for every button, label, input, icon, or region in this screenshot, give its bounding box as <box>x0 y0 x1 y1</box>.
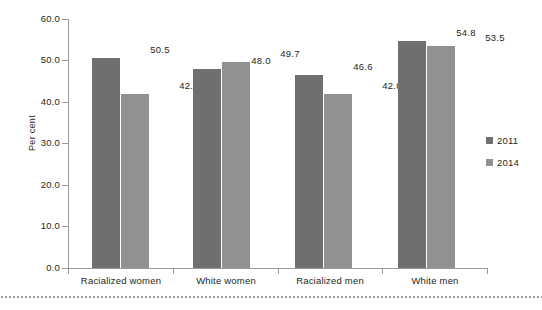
bar-value-label: 50.5 <box>140 44 180 55</box>
legend-item-2011[interactable]: 2011 <box>486 129 519 151</box>
chart-legend: 2011 2014 <box>486 129 519 173</box>
bar-2014[interactable] <box>427 46 455 268</box>
legend-swatch-icon <box>486 137 493 144</box>
y-axis-tick-label: 10.0 <box>14 220 60 231</box>
y-axis-tick-label: 40.0 <box>14 96 60 107</box>
x-axis-tick <box>382 268 383 274</box>
bar-value-label: 46.6 <box>343 61 383 72</box>
bar-2014[interactable] <box>324 94 352 268</box>
x-axis-tick <box>278 268 279 274</box>
bar-2011[interactable] <box>398 41 426 268</box>
x-axis-tick <box>487 268 488 274</box>
bar-2014[interactable] <box>222 62 250 268</box>
bar-group <box>92 19 149 268</box>
x-axis-tick <box>68 268 69 274</box>
bar-2011[interactable] <box>193 69 221 268</box>
bar-2014[interactable] <box>121 94 149 268</box>
bar-2011[interactable] <box>92 58 120 268</box>
x-axis-category-label: White men <box>365 275 505 286</box>
legend-label: 2011 <box>497 135 518 146</box>
legend-label: 2014 <box>497 157 519 168</box>
bar-value-label: 53.5 <box>475 32 515 43</box>
plot-area: 50.5 42.0 48.0 49.7 46.6 42.0 54.8 53.5 <box>68 19 487 268</box>
footer-dotted-divider <box>0 296 542 298</box>
y-axis-title: Per cent <box>27 88 37 178</box>
bar-2011[interactable] <box>295 75 323 268</box>
x-axis-tick <box>173 268 174 274</box>
y-axis-tick-label: 60.0 <box>14 13 60 24</box>
bar-chart-figure: 60.0 50.0 40.0 30.0 20.0 10.0 0.0 Per ce… <box>0 0 542 310</box>
y-axis-tick-label: 50.0 <box>14 54 60 65</box>
bar-group <box>295 19 352 268</box>
y-axis-tick-label: 20.0 <box>14 179 60 190</box>
bar-group <box>398 19 455 268</box>
y-axis-tick-label: 30.0 <box>14 137 60 148</box>
legend-item-2014[interactable]: 2014 <box>486 151 519 173</box>
legend-swatch-icon <box>486 159 493 166</box>
y-axis-tick-label: 0.0 <box>14 262 60 273</box>
